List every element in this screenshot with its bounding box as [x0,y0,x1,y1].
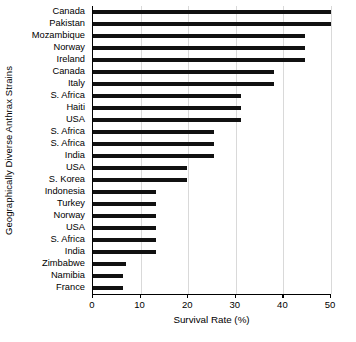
bar-row [93,210,331,222]
bar [93,82,274,85]
bar-row [93,66,331,78]
bar-row [93,162,331,174]
x-axis-title: Survival Rate (%) [92,314,331,325]
x-axis-line [92,294,331,295]
y-axis-tick-label: Mozambique [14,30,88,42]
x-axis-tick-label: 40 [277,299,288,310]
gridline [331,6,332,294]
y-axis-tick-label: Turkey [14,198,88,210]
y-axis-tick-label: Canada [14,66,88,78]
bar [93,274,123,277]
x-axis-tick [140,294,141,298]
y-axis-tick-label: S. Africa [14,138,88,150]
bar [93,46,305,49]
bar [93,226,156,229]
bar [93,106,241,109]
y-axis-tick-label: Namibia [14,270,88,282]
bar-row [93,6,331,18]
y-axis-tick-label: Haiti [14,102,88,114]
bar-row [93,138,331,150]
bar [93,238,156,241]
bar [93,154,214,157]
y-axis-tick-label: Norway [14,210,88,222]
x-axis-tick-label: 10 [134,299,145,310]
y-axis-tick-label: Indonesia [14,186,88,198]
y-axis-tick-label: S. Africa [14,90,88,102]
x-axis-tick-label: 50 [325,299,336,310]
bar-row [93,78,331,90]
y-axis-tick-label: S. Africa [14,234,88,246]
bar-row [93,18,331,30]
bar-row [93,126,331,138]
bar-series [93,6,331,294]
bar-row [93,90,331,102]
bar [93,22,331,25]
bar-row [93,174,331,186]
bar-row [93,114,331,126]
y-axis-tick-label: Pakistan [14,18,88,30]
bar-row [93,30,331,42]
bar [93,70,274,73]
x-axis-tick-label: 0 [89,299,94,310]
x-axis-tick [92,294,93,298]
x-axis-tick [187,294,188,298]
y-axis-tick-label: Canada [14,6,88,18]
bar-row [93,102,331,114]
y-axis-tick-label: USA [14,222,88,234]
x-axis-tick [330,294,331,298]
y-axis-tick-label: France [14,282,88,294]
bar [93,130,214,133]
bar-row [93,186,331,198]
y-axis-tick-label: Italy [14,78,88,90]
bar-row [93,234,331,246]
y-axis-tick-label: USA [14,162,88,174]
y-axis-tick-label: Ireland [14,54,88,66]
bar [93,262,126,265]
y-axis-tick-label: Norway [14,42,88,54]
bar-row [93,258,331,270]
bar-chart-figure: Geographically Diverse Anthrax Strains C… [0,0,356,342]
bar-row [93,150,331,162]
bar-row [93,198,331,210]
bar-row [93,42,331,54]
bar-row [93,282,331,294]
bar-row [93,270,331,282]
y-axis-title: Geographically Diverse Anthrax Strains [4,65,15,234]
y-axis-tick-label: S. Korea [14,174,88,186]
bar-row [93,222,331,234]
y-axis-tick-label: USA [14,114,88,126]
x-axis-tick-label: 20 [182,299,193,310]
bar [93,202,156,205]
plot-area [92,6,331,294]
bar [93,58,305,61]
y-axis-tick-labels: CanadaPakistanMozambiqueNorwayIrelandCan… [14,6,88,294]
y-axis-tick-label: India [14,246,88,258]
bar [93,250,156,253]
x-axis-tick [282,294,283,298]
bar [93,286,123,289]
bar [93,214,156,217]
x-axis-tick-label: 30 [230,299,241,310]
y-axis-tick-label: S. Africa [14,126,88,138]
bar [93,166,187,169]
bar [93,190,156,193]
bar [93,34,305,37]
bar [93,94,241,97]
bar [93,118,241,121]
y-axis-tick-label: Zimbabwe [14,258,88,270]
bar [93,178,187,181]
bar-row [93,54,331,66]
x-axis-tick [235,294,236,298]
bar [93,142,214,145]
bar [93,10,331,13]
y-axis-tick-label: India [14,150,88,162]
bar-row [93,246,331,258]
